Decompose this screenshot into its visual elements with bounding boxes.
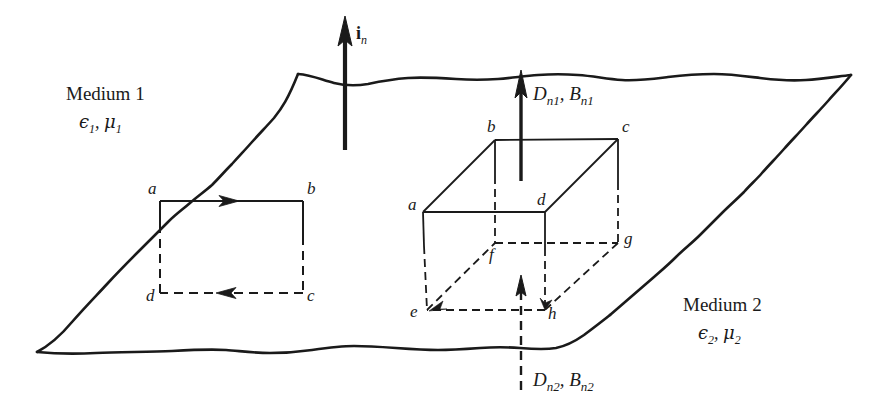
unit-normal-subscript: n	[361, 33, 367, 47]
box-vertex-label-c: c	[622, 118, 630, 135]
medium-2-permittivity-symbol: ϵ	[698, 322, 708, 343]
box-edge-ae-solid	[423, 212, 424, 246]
medium-1-permeability-subscript: 1	[116, 122, 122, 136]
normal-field-lower-label: Dn2, Bn2	[533, 370, 594, 393]
medium-1-title: Medium 1	[66, 84, 145, 103]
medium-2-permeability-symbol: μ	[723, 322, 735, 343]
medium-2-permeability-subscript: 2	[735, 333, 741, 347]
contour-vertex-label-d: d	[146, 287, 155, 304]
normal-field-lower-arrow	[516, 275, 526, 390]
box-vertex-label-e: e	[410, 303, 418, 320]
surface-edge-left-rising	[37, 74, 298, 352]
surface-edge-bottom	[37, 315, 610, 354]
field-upper-comma: ,	[560, 83, 565, 104]
box-edge-bc	[495, 139, 618, 140]
box-vertex-label-b: b	[487, 118, 496, 135]
field-lower-comma: ,	[560, 369, 565, 390]
contour-vertex-label-b: b	[307, 180, 316, 197]
box-vertex-label-g: g	[624, 230, 633, 247]
d-n2-symbol: D	[533, 369, 547, 390]
box-edge-ef	[427, 243, 495, 310]
box-edge-ae-dashed	[424, 246, 427, 310]
medium-2-separator: ,	[714, 323, 719, 343]
box-vertex-label-a: a	[408, 196, 417, 213]
box-vertex-label-h: h	[548, 305, 557, 322]
b-n1-symbol: B	[569, 83, 581, 104]
d-n2-subscript: n2	[547, 379, 560, 394]
surface-edge-right-descending	[610, 75, 851, 315]
medium-2-parameters: ϵ2, μ2	[698, 324, 741, 346]
medium-1-parameters: ϵ1, μ1	[79, 113, 122, 135]
contour-vertex-label-a: a	[148, 180, 157, 197]
box-edge-cd	[545, 139, 618, 212]
box-vertex-label-f: f	[489, 246, 494, 263]
diagram-canvas	[0, 0, 882, 401]
medium-1-separator: ,	[95, 112, 100, 132]
d-n1-subscript: n1	[547, 93, 560, 108]
box-edge-ab	[423, 140, 495, 212]
b-n2-subscript: n2	[581, 379, 594, 394]
d-n1-symbol: D	[533, 83, 547, 104]
unit-normal-label: in	[356, 24, 367, 46]
box-vertex-label-d: d	[537, 191, 546, 208]
normal-field-upper-arrow	[515, 70, 527, 181]
contour-vertex-label-c: c	[307, 287, 315, 304]
medium-2-title: Medium 2	[683, 295, 762, 314]
medium-1-permeability-symbol: μ	[104, 111, 116, 132]
box-edge-gh	[545, 243, 618, 310]
boundary-conditions-figure: Medium 1 ϵ1, μ1 Medium 2 ϵ2, μ2 in Dn1, …	[0, 0, 882, 401]
normal-field-upper-label: Dn1, Bn1	[533, 84, 594, 107]
b-n1-subscript: n1	[581, 93, 594, 108]
b-n2-symbol: B	[569, 369, 581, 390]
medium-1-permittivity-symbol: ϵ	[79, 111, 89, 132]
contour-arrow-cd	[216, 288, 236, 299]
